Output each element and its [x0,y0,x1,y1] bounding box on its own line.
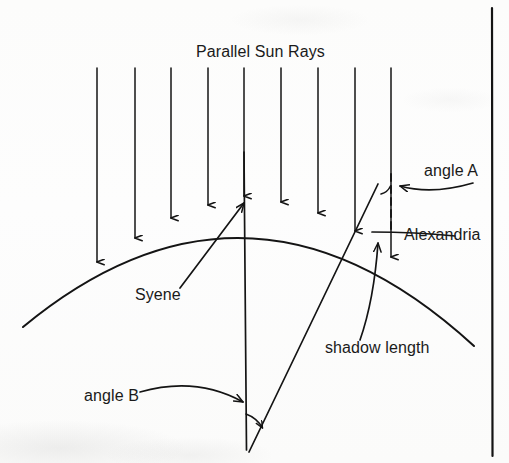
angle-b-leader-line [140,386,243,402]
label-angle-a: angle A [424,162,478,179]
eratosthenes-diagram: Parallel Sun Rays angle A Alexandria Sye… [0,0,509,463]
label-syene: Syene [135,286,181,303]
page-border-right-line [492,8,493,456]
label-angle-b: angle B [84,387,139,404]
label-alexandria: Alexandria [404,226,481,243]
syene-leader-line [180,203,244,288]
angle-a-arc-marker [381,186,391,194]
earth-surface-arc [23,238,474,346]
label-shadow-length: shadow length [325,339,430,356]
shadow-length-leader-line [360,243,378,340]
syene-radius-line [244,152,247,450]
angle-b-arc-marker [246,414,263,428]
label-parallel-sun-rays: Parallel Sun Rays [196,43,325,60]
diagram-canvas: Parallel Sun Rays angle A Alexandria Sye… [0,0,509,463]
alexandria-radius-line [249,184,378,452]
angle-a-leader-line [400,183,473,190]
